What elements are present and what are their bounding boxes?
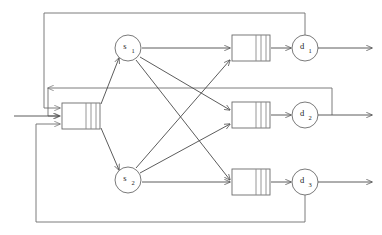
output-queue-2 [232, 102, 270, 128]
edge-inputqueue-to-s1 [101, 58, 119, 104]
server-node-s2: s 2 [115, 167, 141, 193]
departure-d2-subscript: 2 [308, 114, 311, 121]
departure-node-d2: d 2 [292, 102, 318, 128]
output-queue-3 [232, 169, 270, 195]
server-s1-label: s [123, 41, 126, 51]
server-s1-subscript: 1 [131, 47, 134, 54]
server-node-s1: s 1 [115, 35, 141, 61]
edge-s2-to-queue1 [136, 60, 230, 168]
server-s2-label: s [123, 173, 126, 183]
departure-d1-subscript: 1 [308, 47, 311, 54]
queueing-network-diagram: s 1 s 2 d 1 d 2 d 3 [0, 0, 382, 235]
network-canvas: s 1 s 2 d 1 d 2 d 3 [0, 0, 382, 235]
server-s2-subscript: 2 [131, 179, 134, 186]
input-queue [62, 103, 100, 129]
departure-d3-subscript: 3 [308, 181, 311, 188]
departure-node-d3: d 3 [292, 169, 318, 195]
edge-s1-to-queue2 [140, 57, 230, 110]
edge-inputqueue-to-s2 [101, 128, 119, 170]
edge-s1-to-queue3 [136, 60, 230, 180]
departure-node-d1: d 1 [292, 35, 318, 61]
output-queue-1 [232, 35, 270, 61]
